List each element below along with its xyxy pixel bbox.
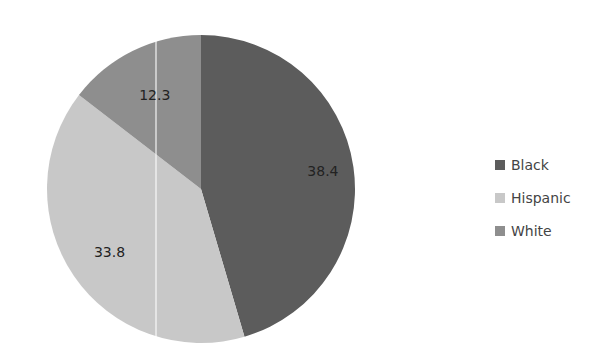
legend-swatch-black [495, 160, 505, 170]
data-label-black: 38.4 [307, 163, 338, 179]
pie-slices [47, 35, 355, 343]
legend-label-white: White [511, 223, 552, 239]
legend: Black Hispanic White [495, 148, 571, 247]
legend-swatch-hispanic [495, 193, 505, 203]
legend-swatch-white [495, 226, 505, 236]
pie-chart: 38.433.812.3 Black Hispanic White [0, 0, 607, 358]
legend-item-hispanic: Hispanic [495, 181, 571, 214]
legend-item-black: Black [495, 148, 571, 181]
legend-item-white: White [495, 214, 571, 247]
data-label-white: 12.3 [139, 87, 170, 103]
data-label-hispanic: 33.8 [94, 244, 125, 260]
legend-label-black: Black [511, 157, 549, 173]
legend-label-hispanic: Hispanic [511, 190, 571, 206]
